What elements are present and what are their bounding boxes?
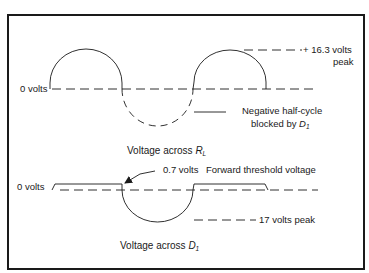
threshold-segment-2 [194, 184, 268, 190]
diode-subscript: 1 [306, 123, 310, 130]
waveform-diagram [0, 0, 369, 273]
threshold-segment-1 [52, 184, 122, 190]
bottom-caption-prefix: Voltage across [120, 240, 188, 251]
top-zero-label: 0 volts [20, 83, 47, 94]
bottom-caption: Voltage across D1 [120, 240, 199, 254]
blocked-by-label: blocked by D1 [251, 118, 310, 132]
bottom-caption-subscript: 1 [196, 245, 200, 252]
negative-half-cycle-label: Negative half-cycle [242, 105, 322, 116]
threshold-arrow [125, 171, 155, 183]
positive-half-cycle-1 [50, 49, 122, 89]
negative-half-cycle-blocked [122, 89, 193, 126]
top-peak-label: + 16.3 volts [303, 44, 352, 55]
bottom-peak-label: 17 volts peak [259, 214, 315, 225]
diode-symbol: D [299, 118, 306, 129]
blocked-by-prefix: blocked by [251, 118, 299, 129]
threshold-description-label: Forward threshold voltage [206, 164, 316, 175]
bottom-zero-label: 0 volts [17, 181, 44, 192]
top-caption: Voltage across RL [127, 145, 206, 159]
top-caption-prefix: Voltage across [127, 145, 195, 156]
top-peak-label-line2: peak [333, 56, 354, 67]
bottom-caption-symbol: D [188, 240, 195, 251]
threshold-value-label: 0.7 volts [163, 164, 198, 175]
positive-half-cycle-2 [193, 50, 266, 89]
top-caption-symbol: R [195, 145, 202, 156]
top-caption-subscript: L [203, 150, 207, 157]
